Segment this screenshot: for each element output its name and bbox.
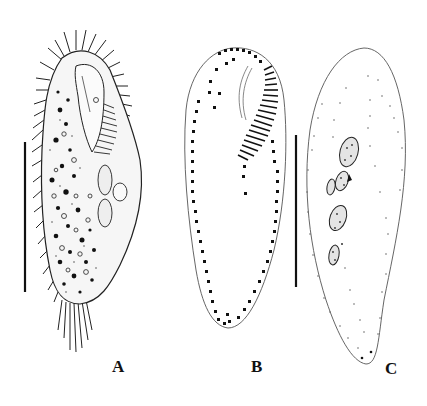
figure-illustration xyxy=(0,0,427,406)
panel-label-a: A xyxy=(112,357,124,377)
panel-label-c: C xyxy=(385,359,397,379)
panel-label-b: B xyxy=(251,357,262,377)
panel-c-drawing xyxy=(306,48,405,364)
panel-b-drawing xyxy=(185,48,286,328)
panel-a-drawing xyxy=(32,30,141,352)
